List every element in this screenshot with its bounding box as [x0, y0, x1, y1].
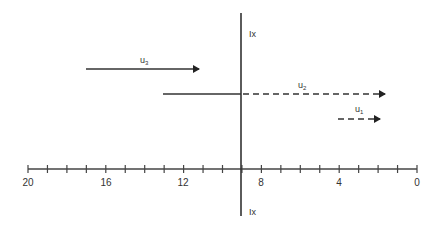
diagram-canvas: 20 16 12 8 4 0 Ix Ix u3 u2 u1: [0, 0, 442, 227]
vertical-line-label-bottom: Ix: [249, 207, 257, 217]
vertical-line-label-top: Ix: [249, 29, 257, 39]
tick-label-16: 16: [100, 177, 112, 188]
tick-label-0: 0: [414, 177, 420, 188]
tick-label-4: 4: [336, 177, 342, 188]
horizontal-axis: [28, 165, 417, 173]
svg-text:u3: u3: [140, 55, 149, 66]
tick-label-8: 8: [258, 177, 264, 188]
vector-u2-subscript: 2: [303, 85, 307, 91]
vector-u1-subscript: 1: [360, 109, 364, 115]
vector-u3: u3: [86, 55, 199, 69]
vector-u1: u1: [338, 104, 380, 119]
vector-u2: u2: [163, 80, 385, 94]
tick-label-20: 20: [22, 177, 34, 188]
axis-tick-labels: 20 16 12 8 4 0: [22, 177, 420, 188]
svg-text:u1: u1: [355, 104, 364, 115]
vector-u3-subscript: 3: [145, 60, 149, 66]
svg-text:u2: u2: [298, 80, 307, 91]
tick-label-12: 12: [177, 177, 189, 188]
